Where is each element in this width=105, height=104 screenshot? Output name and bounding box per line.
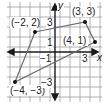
point-4-1 [93,40,97,44]
y-axis-down-arrow-icon [52,94,58,100]
x-axis-left-arrow-icon [8,49,14,55]
x-tick-3: 3 [82,53,88,64]
labels: (−2, 2) (3, 3) (4, 1) (−4, −3) y x −1 3 … [9,0,103,96]
x-tick-neg1: −1 [40,53,52,64]
y-tick-1: 1 [47,37,53,48]
point-3-3 [83,20,87,24]
x-axis-label: x [96,52,103,63]
y-tick-3: 3 [47,17,53,28]
label-point-3-3: (3, 3) [72,6,95,17]
label-point-neg2-2: (−2, 2) [11,17,40,28]
y-tick-neg3: −3 [41,77,53,88]
point-neg2-2 [33,30,37,34]
label-point-neg4-neg3: (−4, −3) [10,85,45,96]
label-point-4-1: (4, 1) [63,35,86,46]
point-neg4-neg3 [13,80,17,84]
coordinate-plane: (−2, 2) (3, 3) (4, 1) (−4, −3) y x −1 3 … [0,0,105,104]
y-axis-label: y [57,0,64,11]
